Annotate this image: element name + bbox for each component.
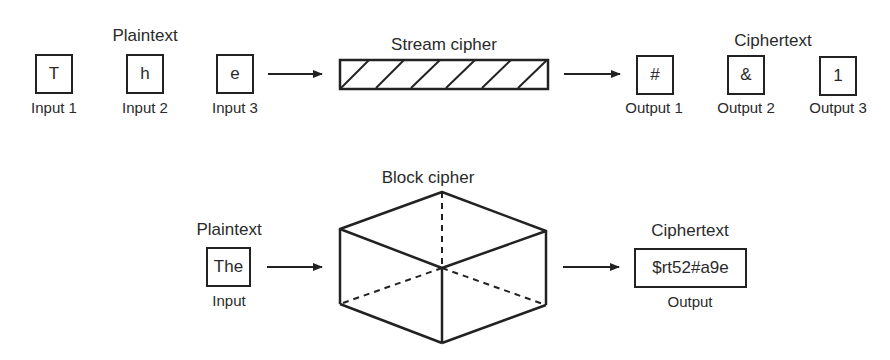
- stream-input-2-label: Input 2: [122, 99, 168, 116]
- stream-input-1-label: Input 1: [31, 99, 77, 116]
- block-input-box: The: [206, 247, 251, 287]
- stream-output-3-box: 1: [819, 56, 857, 96]
- block-cipher-title: Block cipher: [382, 168, 475, 188]
- stream-input-2-box: h: [126, 54, 164, 94]
- stream-input-3-box: e: [216, 54, 254, 94]
- stream-output-3-label: Output 3: [809, 99, 867, 116]
- block-output-label: Output: [667, 293, 712, 310]
- stream-output-2-label: Output 2: [717, 99, 775, 116]
- stream-output-1-box: #: [636, 55, 674, 95]
- stream-ciphertext-title: Ciphertext: [734, 31, 811, 51]
- stream-output-1-label: Output 1: [625, 99, 683, 116]
- block-cipher-cube: [340, 192, 546, 343]
- block-input-label: Input: [212, 292, 245, 309]
- block-ciphertext-title: Ciphertext: [651, 221, 728, 241]
- stream-output-2-box: &: [727, 55, 765, 95]
- stream-cipher-bar: [340, 60, 548, 89]
- block-plaintext-title: Plaintext: [196, 220, 261, 240]
- stream-input-1-box: T: [35, 54, 73, 94]
- block-output-box: $rt52#a9e: [634, 248, 747, 288]
- stream-plaintext-title: Plaintext: [112, 26, 177, 46]
- stream-input-3-label: Input 3: [212, 99, 258, 116]
- stream-cipher-title: Stream cipher: [391, 35, 497, 55]
